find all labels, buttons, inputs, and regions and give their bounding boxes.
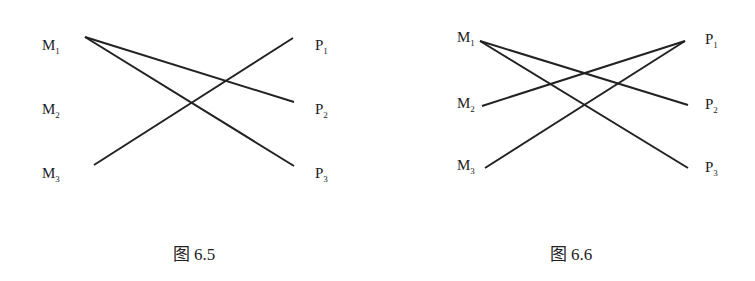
node-p3: P3 (315, 166, 328, 187)
node-m2: M2 (42, 102, 60, 123)
figure-6-6-edges (480, 41, 688, 168)
node-p2: P2 (705, 97, 718, 118)
node-m1: M1 (457, 30, 475, 51)
bipartite-diagrams (0, 0, 755, 281)
figure-6-5-edges (85, 37, 294, 166)
node-p1: P1 (315, 38, 328, 59)
figure-caption-6-5: 图 6.5 (173, 240, 216, 265)
node-p2: P2 (315, 102, 328, 123)
edge-m1-p2 (85, 37, 294, 102)
node-m3: M3 (457, 158, 475, 179)
node-m1: M1 (42, 38, 60, 59)
node-m3: M3 (42, 166, 60, 187)
node-m2: M2 (457, 96, 475, 117)
node-p3: P3 (705, 160, 718, 181)
node-p1: P1 (705, 32, 718, 53)
figure-caption-6-6: 图 6.6 (550, 240, 593, 265)
